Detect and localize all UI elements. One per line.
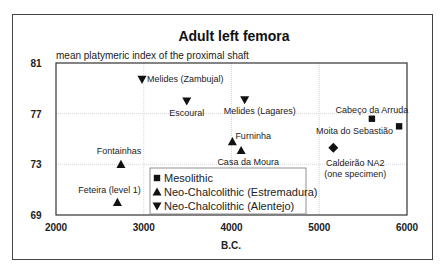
x-tick-label: 5000: [308, 222, 331, 233]
data-point-marker: [328, 143, 338, 153]
x-axis-ticks: 20003000400050006000: [45, 222, 419, 233]
data-point-marker: [137, 76, 146, 84]
data-point-marker: [182, 97, 191, 105]
legend-marker: [154, 175, 160, 181]
y-tick-label: 77: [30, 109, 42, 120]
scatter-chart: Adult left femora mean platymeric index …: [0, 0, 446, 274]
data-point-label: Furninha: [235, 131, 271, 141]
chart-subtitle: mean platymeric index of the proximal sh…: [56, 50, 249, 61]
data-point-label: Caldeirão NA2: [326, 158, 385, 168]
y-axis-ticks: 69737781: [30, 58, 42, 221]
data-point-marker: [240, 96, 249, 104]
x-tick-label: 2000: [45, 222, 68, 233]
y-tick-label: 73: [30, 159, 42, 170]
y-tick-label: 81: [30, 58, 42, 69]
data-point-marker: [113, 198, 122, 206]
data-point-label: Casa da Moura: [217, 157, 279, 167]
legend-entry: Neo-Chalcolithic (Alentejo): [164, 200, 294, 212]
data-point-marker: [237, 146, 246, 154]
x-tick-label: 3000: [133, 222, 156, 233]
data-point-label: Moita do Sebastião: [316, 126, 393, 136]
data-point-marker: [396, 123, 402, 129]
x-tick-label: 4000: [220, 222, 243, 233]
data-point-label: Feteira (level 1): [78, 185, 141, 195]
legend-entry: Mesolithic: [164, 172, 213, 184]
data-point-label: Melides (Lagares): [224, 106, 296, 116]
data-point-marker: [369, 116, 375, 122]
x-tick-label: 6000: [396, 222, 419, 233]
data-point-label: Cabeço da Arruda: [336, 105, 409, 115]
data-point-label: Melides (Zambujal): [147, 74, 224, 84]
data-point-label: (one specimen): [324, 169, 386, 179]
data-point-label: Fontainhas: [97, 146, 142, 156]
x-axis-label: B.C.: [221, 240, 241, 251]
data-point-marker: [116, 160, 125, 168]
legend: MesolithicNeo-Chalcolithic (Estremadura)…: [150, 168, 317, 214]
chart-title: Adult left femora: [178, 28, 289, 44]
legend-entry: Neo-Chalcolithic (Estremadura): [164, 186, 317, 198]
data-point-label: Escoural: [169, 108, 204, 118]
y-tick-label: 69: [30, 210, 42, 221]
